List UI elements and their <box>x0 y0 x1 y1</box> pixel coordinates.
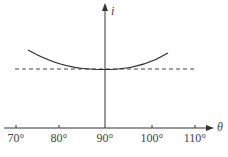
tick-label-90: 90° <box>97 131 114 145</box>
i-theta-curve <box>28 50 168 70</box>
chart: 70° 80° 90° 100° 110° θ i <box>0 0 228 157</box>
tick-label-100: 100° <box>141 131 164 145</box>
tick-label-80: 80° <box>51 131 68 145</box>
tick-label-70: 70° <box>8 131 25 145</box>
y-axis-arrow-icon <box>102 3 108 11</box>
x-axis-label: θ <box>217 120 223 134</box>
y-axis-label: i <box>111 4 114 18</box>
tick-label-110: 110° <box>184 131 207 145</box>
x-axis-arrow-icon <box>206 125 214 131</box>
